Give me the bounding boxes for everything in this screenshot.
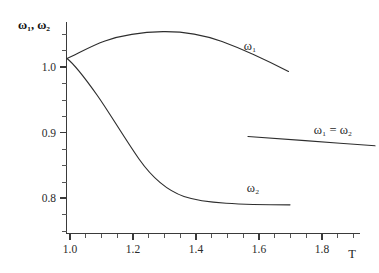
x-tick-label-5: 1.8 (315, 243, 330, 255)
y-axis-title: ω₁, ω₂ (18, 18, 50, 32)
y-axis-major-ticks (60, 67, 67, 198)
x-tick-label-4: 1.6 (252, 243, 267, 255)
y-tick-label-3: 0.8 (42, 192, 57, 204)
x-axis-title: T (348, 247, 356, 261)
y-tick-label-1: 1.0 (42, 61, 57, 73)
y-tick-label-2: 0.9 (42, 127, 57, 139)
x-tick-label-1: 1.0 (63, 243, 78, 255)
x-axis-minor-ticks (86, 234, 354, 239)
curve-label-omega2: ω₂ (247, 181, 260, 195)
curve-label-omega1: ω₁ (244, 39, 257, 53)
x-tick-label-2: 1.2 (126, 243, 141, 255)
figure-container: 1.0 0.9 0.8 1.0 1.2 1.4 1.6 1.8 ω₁, ω₂ T… (0, 0, 379, 273)
curve-label-omega1-equals-omega2: ω₁ = ω₂ (314, 123, 352, 137)
curve-omega1-equals-omega2 (248, 137, 375, 146)
x-tick-label-3: 1.4 (189, 243, 204, 255)
omega-vs-temperature-chart: 1.0 0.9 0.8 1.0 1.2 1.4 1.6 1.8 ω₁, ω₂ T… (0, 0, 379, 273)
x-axis-major-ticks (70, 234, 322, 241)
